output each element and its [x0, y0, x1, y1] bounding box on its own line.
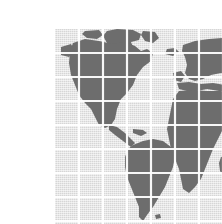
world-map-figure[interactable]: Dithered gray world map with white latit… [55, 29, 222, 224]
arctic-islands-shape [82, 30, 103, 39]
page-canvas: Dithered gray world map with white latit… [0, 0, 222, 224]
landmass-layer [55, 29, 222, 224]
caribbean-shape [133, 129, 147, 136]
british-isles-shape [173, 71, 185, 82]
central-america-shape [109, 125, 135, 147]
island-dot-2 [155, 214, 161, 219]
madagascar-shape [219, 155, 222, 177]
south-america-shape [125, 139, 175, 221]
baffin-shape [141, 31, 159, 43]
north-america-shape [69, 39, 153, 128]
europe-shape [182, 37, 222, 81]
iceland-shape [165, 48, 179, 56]
africa-shape [167, 90, 222, 193]
southern-europe-shape [177, 82, 222, 91]
